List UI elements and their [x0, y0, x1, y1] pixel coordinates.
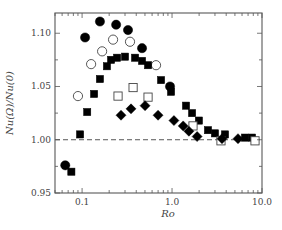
square-marker: [84, 108, 91, 115]
square-marker: [167, 88, 174, 95]
y-axis-title: Nu(Ω)/Nu(0): [4, 71, 15, 136]
y-tick-labels: 0.951.001.051.10: [31, 28, 51, 198]
x-tick-labels: 0.11.010.0: [75, 197, 272, 207]
square-marker: [96, 75, 103, 82]
square-marker: [113, 54, 120, 61]
square-marker: [103, 63, 110, 70]
circle-marker: [137, 44, 146, 53]
square-marker: [129, 83, 137, 91]
square-marker: [188, 110, 195, 117]
square-marker: [121, 53, 128, 60]
circle-marker: [95, 17, 104, 26]
diamond-marker: [116, 110, 126, 120]
circle-marker: [151, 61, 160, 70]
x-axis-title: Ro: [160, 208, 175, 219]
x-tick-label: 0.1: [75, 197, 89, 207]
diamond-marker: [169, 116, 179, 126]
diamond-marker: [140, 101, 150, 111]
square-marker: [182, 102, 189, 109]
square-marker: [114, 92, 122, 100]
y-tick-label: 1.10: [31, 28, 51, 38]
circle-marker: [80, 33, 89, 42]
square-marker: [241, 134, 248, 141]
circle-marker: [125, 37, 134, 46]
square-marker: [90, 90, 97, 97]
circle-marker: [73, 91, 82, 100]
y-tick-label: 1.05: [31, 81, 51, 91]
square-marker: [76, 131, 83, 138]
square-marker: [144, 93, 152, 101]
circle-marker: [87, 60, 96, 69]
y-tick-label: 1.00: [31, 135, 51, 145]
square-marker: [131, 54, 138, 61]
square-marker: [68, 168, 75, 175]
circle-marker: [108, 35, 117, 44]
x-tick-label: 10.0: [252, 197, 272, 207]
series-filled-diamonds: [116, 101, 243, 144]
x-tick-label: 1.0: [165, 197, 180, 207]
diamond-marker: [126, 104, 136, 114]
circle-marker: [123, 25, 132, 34]
data-markers: [61, 17, 259, 175]
diamond-marker: [153, 110, 163, 120]
square-marker: [251, 137, 259, 145]
circle-marker: [98, 47, 107, 56]
circle-marker: [112, 20, 121, 29]
y-tick-label: 0.95: [31, 188, 51, 198]
square-marker: [157, 77, 164, 84]
square-marker: [204, 127, 211, 134]
scatter-chart: 0.11.010.0 0.951.001.051.10 Ro Nu(Ω)/Nu(…: [0, 0, 282, 230]
square-marker: [144, 62, 151, 69]
square-marker: [211, 130, 218, 137]
